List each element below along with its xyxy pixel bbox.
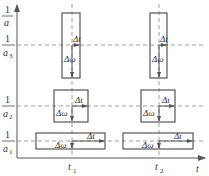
svg-text:1: 1 bbox=[9, 148, 13, 156]
x-tick-labels: t 1 t 2 t bbox=[68, 161, 199, 175]
svg-text:Δω: Δω bbox=[54, 140, 67, 150]
svg-text:a: a bbox=[3, 143, 8, 154]
svg-text:Δω: Δω bbox=[141, 140, 154, 150]
svg-text:Δt: Δt bbox=[173, 131, 182, 141]
tiles bbox=[36, 13, 193, 149]
svg-text:Δt: Δt bbox=[159, 34, 168, 44]
svg-text:t: t bbox=[155, 161, 158, 172]
svg-text:3: 3 bbox=[9, 52, 13, 60]
svg-text:1: 1 bbox=[5, 129, 10, 140]
svg-text:a: a bbox=[3, 47, 8, 58]
svg-text:1: 1 bbox=[5, 33, 10, 44]
svg-text:Δt: Δt bbox=[161, 95, 170, 105]
svg-text:Δω: Δω bbox=[151, 54, 164, 64]
svg-text:2: 2 bbox=[160, 167, 164, 175]
svg-text:t: t bbox=[68, 161, 71, 172]
y-level-labels: 1 a 3 1 a 2 1 a 1 bbox=[2, 33, 15, 156]
svg-text:a: a bbox=[3, 108, 8, 119]
svg-text:2: 2 bbox=[9, 113, 13, 121]
svg-text:Δt: Δt bbox=[72, 34, 81, 44]
svg-text:t: t bbox=[196, 163, 199, 174]
svg-text:1: 1 bbox=[5, 4, 10, 15]
svg-text:1: 1 bbox=[5, 94, 10, 105]
svg-text:Δω: Δω bbox=[142, 108, 155, 118]
svg-text:Δt: Δt bbox=[74, 95, 83, 105]
y-axis-label: 1 a bbox=[2, 4, 13, 28]
svg-text:a: a bbox=[4, 17, 9, 28]
svg-text:Δω: Δω bbox=[63, 54, 76, 64]
time-frequency-diagram: Δt Δω Δt Δω Δt Δω Δt Δω Δt Δω Δt Δω 1 a … bbox=[0, 0, 209, 176]
svg-text:Δt: Δt bbox=[86, 131, 95, 141]
svg-text:Δω: Δω bbox=[55, 108, 68, 118]
svg-text:1: 1 bbox=[73, 167, 77, 175]
